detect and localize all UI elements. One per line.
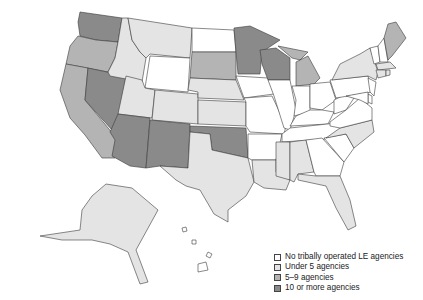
legend-label: 10 or more agencies (285, 283, 360, 293)
legend-item-under5: Under 5 agencies (274, 262, 403, 272)
state-rhode-island (386, 70, 390, 76)
state-maine (384, 22, 406, 60)
state-connecticut (376, 70, 386, 78)
state-south-dakota (190, 52, 236, 80)
state-new-mexico (146, 120, 190, 168)
state-new-jersey (368, 78, 376, 96)
state-hawaii (182, 227, 212, 272)
state-massachusetts (376, 62, 396, 70)
legend-label: Under 5 agencies (285, 262, 349, 272)
state-delaware (368, 94, 372, 104)
legend-swatch-under5 (274, 264, 281, 271)
legend-item-5to9: 5–9 agencies (274, 273, 403, 283)
state-kansas (198, 100, 246, 126)
legend-item-10plus: 10 or more agencies (274, 283, 403, 293)
legend-swatch-none (274, 254, 281, 261)
state-arizona (110, 114, 150, 168)
legend-item-none: No tribally operated LE agencies (274, 252, 403, 262)
state-alaska (40, 184, 158, 284)
legend-swatch-5to9 (274, 274, 281, 281)
state-mississippi (276, 142, 290, 180)
map-legend: No tribally operated LE agencies Under 5… (274, 252, 403, 293)
state-florida (298, 174, 356, 230)
legend-swatch-10plus (274, 285, 281, 292)
legend-label: No tribally operated LE agencies (285, 252, 403, 262)
state-wyoming (145, 56, 190, 92)
state-north-dakota (192, 28, 236, 52)
legend-label: 5–9 agencies (285, 273, 334, 283)
state-colorado (152, 90, 198, 124)
